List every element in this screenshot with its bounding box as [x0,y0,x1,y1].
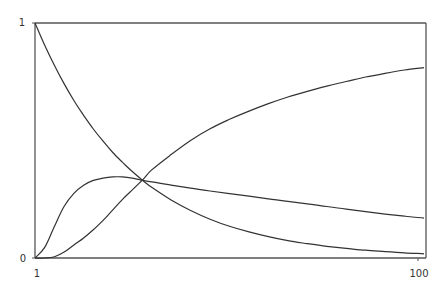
y-tick-label-bottom: 0 [20,253,26,264]
x-tick-label-right: 100 [409,268,428,279]
hump-curve [35,177,424,258]
y-tick-label-top: 1 [19,17,25,28]
tick-labels: 1 0 1 100 [19,17,429,279]
x-tick-label-left: 1 [34,268,40,279]
rising-curve [35,68,424,258]
decaying-curve [35,23,424,254]
series-layer [35,23,424,258]
plot-frame [32,23,426,261]
line-chart: 1 0 1 100 [0,0,448,290]
